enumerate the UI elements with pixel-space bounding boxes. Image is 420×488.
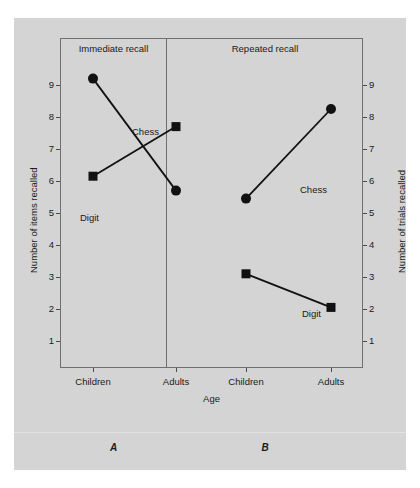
data-point-circle: [326, 104, 336, 114]
data-series-layer: [14, 18, 406, 470]
series-label-chess: Chess: [300, 184, 327, 195]
series-label-digit: Digit: [80, 212, 99, 223]
series-line-digit: [246, 274, 331, 308]
figure-panel: Immediate recall Repeated recall Number …: [14, 18, 406, 470]
data-point-circle: [171, 186, 181, 196]
caption-letter-b: B: [167, 442, 363, 453]
data-point-square: [89, 172, 98, 181]
data-point-square: [242, 269, 251, 278]
data-point-square: [172, 122, 181, 131]
data-point-circle: [88, 74, 98, 84]
data-point-circle: [241, 194, 251, 204]
caption-letter-a: A: [60, 442, 167, 453]
data-point-square: [327, 303, 336, 312]
series-label-chess: Chess: [132, 126, 159, 137]
series-label-digit: Digit: [302, 308, 321, 319]
